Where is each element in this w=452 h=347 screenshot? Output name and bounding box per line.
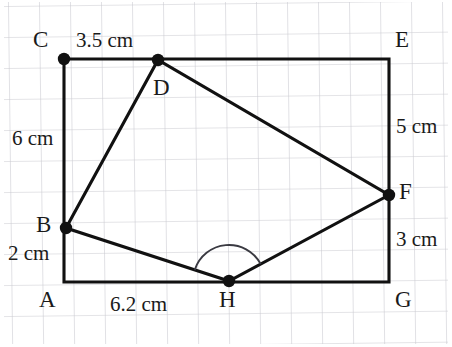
figure-canvas: ABCDEFGH3.5 cm6 cm2 cm6.2 cm5 cm3 cm [0,0,452,347]
measurement-label-bc: 6 cm [12,128,53,149]
vertex-label-h: H [219,288,236,311]
vertex-label-f: F [399,180,412,203]
vertex-dot-c [58,53,70,65]
vertex-dot-h [223,275,235,287]
measurement-label-ef: 5 cm [396,116,437,137]
measurement-label-cd: 3.5 cm [76,30,133,51]
vertex-dot-d [152,54,164,66]
vertex-label-a: A [39,288,56,311]
measurement-label-fg: 3 cm [396,229,437,250]
vertex-dot-b [60,222,72,234]
measurement-label-ah: 6.2 cm [110,294,167,315]
vertex-label-g: G [395,288,412,311]
measurement-label-ab: 2 cm [8,243,49,264]
vertex-label-e: E [395,28,409,51]
vertex-label-d: D [153,76,170,99]
vertex-label-c: C [33,28,48,51]
vertex-dot-f [383,189,395,201]
vertex-label-b: B [36,213,51,236]
